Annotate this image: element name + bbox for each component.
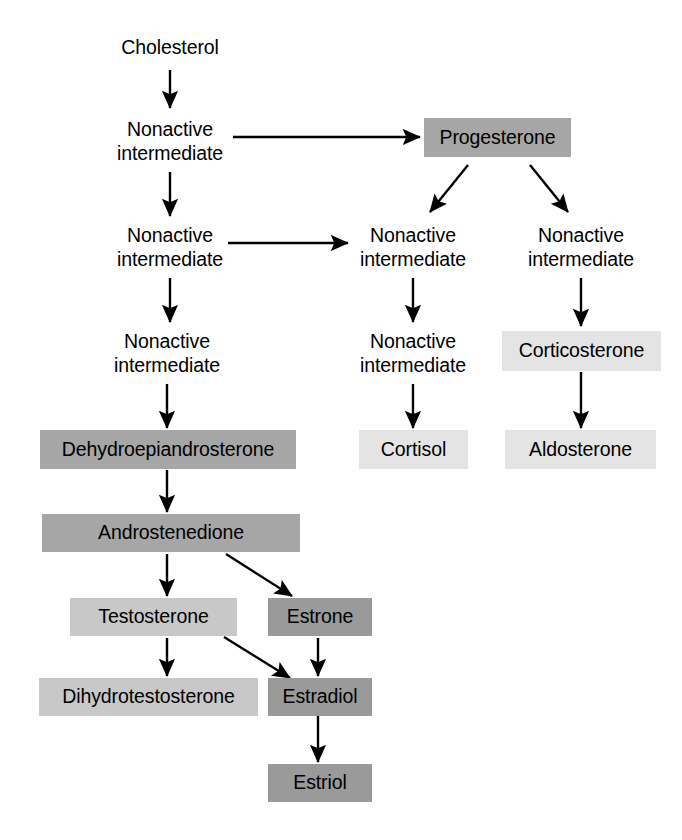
node-progesterone: Progesterone <box>424 118 571 157</box>
node-label: Nonactive intermediate <box>360 224 466 272</box>
node-nonactive-intermediate-3: Nonactive intermediate <box>92 327 242 381</box>
node-nonactive-intermediate-right-1: Nonactive intermediate <box>506 221 656 275</box>
node-label: Aldosterone <box>529 438 632 462</box>
node-label: Androstenedione <box>98 521 244 545</box>
node-corticosterone: Corticosterone <box>502 331 661 371</box>
node-label: Nonactive intermediate <box>360 330 466 378</box>
node-label: Estradiol <box>283 685 358 709</box>
node-dihydrotestosterone: Dihydrotestosterone <box>39 678 258 716</box>
node-label: Nonactive intermediate <box>117 118 223 166</box>
node-estriol: Estriol <box>268 764 372 802</box>
node-label: Cortisol <box>381 438 446 462</box>
node-aldosterone: Aldosterone <box>505 430 656 469</box>
node-testosterone: Testosterone <box>70 598 237 636</box>
node-label: Nonactive intermediate <box>117 224 223 272</box>
node-label: Testosterone <box>98 605 208 629</box>
node-label: Nonactive intermediate <box>114 330 220 378</box>
arrow-testosterone-to-estradiol <box>224 637 290 678</box>
node-dehydroepiandrosterone: Dehydroepiandrosterone <box>40 430 296 469</box>
node-label: Corticosterone <box>519 339 644 363</box>
arrow-progesterone-to-nonactive-mid <box>430 165 468 212</box>
node-label: Estrone <box>287 605 354 629</box>
pathway-diagram: Cholesterol Nonactive intermediate Nonac… <box>0 0 682 840</box>
node-estradiol: Estradiol <box>268 678 372 716</box>
node-nonactive-intermediate-2: Nonactive intermediate <box>95 221 245 275</box>
node-label: Nonactive intermediate <box>528 224 634 272</box>
node-label: Dehydroepiandrosterone <box>62 438 274 462</box>
node-cortisol: Cortisol <box>359 430 468 469</box>
node-label: Estriol <box>293 771 346 795</box>
node-label: Cholesterol <box>121 36 219 60</box>
arrow-androstenedione-to-estrone <box>226 554 292 596</box>
node-label: Dihydrotestosterone <box>62 685 235 709</box>
node-nonactive-intermediate-mid-2: Nonactive intermediate <box>338 327 488 381</box>
arrow-progesterone-to-nonactive-right <box>530 165 568 212</box>
node-cholesterol: Cholesterol <box>100 32 240 64</box>
node-estrone: Estrone <box>268 598 372 636</box>
node-label: Progesterone <box>440 126 556 150</box>
node-androstenedione: Androstenedione <box>42 514 300 552</box>
node-nonactive-intermediate-1: Nonactive intermediate <box>95 115 245 169</box>
node-nonactive-intermediate-mid-1: Nonactive intermediate <box>338 221 488 275</box>
